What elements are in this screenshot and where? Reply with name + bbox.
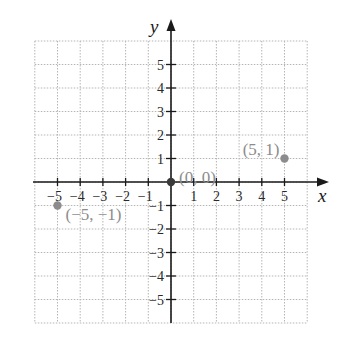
y-tick-label: −2 [149,222,164,237]
y-axis-arrow-icon [167,19,176,31]
x-axis-label: x [317,185,327,206]
y-tick-label: 2 [157,128,164,143]
y-tick-label: 3 [157,105,164,120]
y-tick-label: 1 [157,152,164,167]
x-tick-label: −5 [47,189,62,204]
y-tick-label: 5 [157,58,164,73]
y-axis-label: y [148,16,159,37]
x-tick-label: 1 [190,189,197,204]
x-tick-label: 5 [281,189,288,204]
data-point-label: (0, 0) [179,168,216,187]
data-point [280,154,288,162]
data-point [167,178,175,186]
y-tick-label: 4 [157,81,164,96]
coordinate-plane: x y −5−4−3−2−112345−5−4−3−2−112345 (0, 0… [0,0,346,345]
x-tick-label: 2 [213,189,220,204]
data-point [53,201,61,209]
data-point-label: (5, 1) [243,140,280,159]
y-tick-label: −3 [149,246,164,261]
x-tick-label: −3 [92,189,107,204]
x-tick-label: 3 [236,189,243,204]
x-tick-label: −4 [70,189,85,204]
y-tick-label: −4 [149,269,164,284]
data-point-label: (−5, −1) [66,205,122,224]
y-tick-label: −5 [149,293,164,308]
x-tick-label: 4 [258,189,265,204]
y-tick-label: −1 [149,199,164,214]
x-tick-label: −2 [115,189,130,204]
